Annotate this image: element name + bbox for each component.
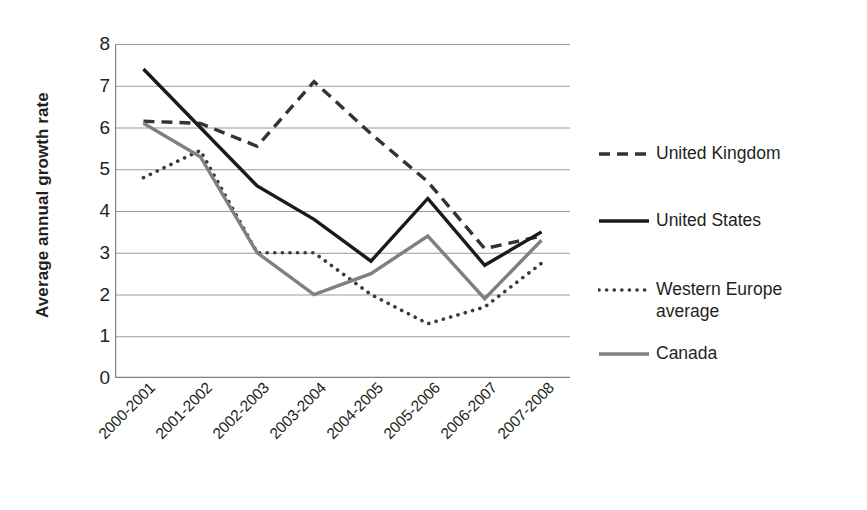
legend-label: Canada — [650, 342, 717, 364]
series-line-0 — [143, 82, 541, 249]
chart-canvas — [115, 44, 570, 378]
y-tick-label: 1 — [64, 325, 110, 347]
y-tick-label: 2 — [64, 284, 110, 306]
legend-item[interactable]: Canada — [598, 342, 717, 364]
x-tick-label: 2004-2005 — [323, 379, 387, 443]
legend-item[interactable]: Western Europeaverage — [598, 278, 782, 323]
legend-item[interactable]: United Kingdom — [598, 142, 781, 164]
legend-label: United States — [650, 209, 761, 231]
y-axis-title: Average annual growth rate — [28, 40, 58, 370]
y-tick-label: 5 — [64, 158, 110, 180]
plot-area — [115, 44, 570, 378]
y-tick-label: 4 — [64, 200, 110, 222]
legend-label: Western Europeaverage — [650, 278, 782, 323]
chart-page: Average annual growth rate 876543210 200… — [0, 0, 867, 510]
y-tick-label: 7 — [64, 75, 110, 97]
y-axis-tick-labels: 876543210 — [58, 0, 110, 510]
legend-swatch-solid-icon — [598, 344, 650, 364]
x-tick-label: 2006-2007 — [437, 379, 501, 443]
legend-swatch-solid-icon — [598, 211, 650, 231]
legend-item[interactable]: United States — [598, 209, 761, 231]
y-axis-title-text: Average annual growth rate — [33, 92, 53, 318]
y-tick-label: 8 — [64, 33, 110, 55]
x-tick-label: 2002-2003 — [209, 379, 273, 443]
x-tick-label: 2007-2008 — [494, 379, 558, 443]
y-tick-label: 3 — [64, 242, 110, 264]
x-tick-label: 2001-2002 — [152, 379, 216, 443]
y-tick-label: 6 — [64, 117, 110, 139]
legend-swatch-dotted-icon — [598, 280, 650, 300]
x-tick-label: 2005-2006 — [380, 379, 444, 443]
legend-swatch-dashed-icon — [598, 144, 650, 164]
legend-label: United Kingdom — [650, 142, 781, 164]
x-tick-label: 2003-2004 — [266, 379, 330, 443]
series-line-1 — [143, 69, 541, 265]
y-tick-label: 0 — [64, 367, 110, 389]
